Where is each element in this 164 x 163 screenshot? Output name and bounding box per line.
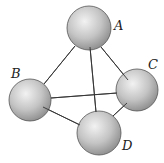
edge-overlay — [51, 93, 117, 98]
sphere-c-shape — [116, 69, 158, 111]
sphere-tetrahedron-diagram: ABCD — [0, 0, 164, 163]
edge-overlay — [44, 46, 75, 84]
sphere-d: D — [77, 111, 133, 155]
edge-overlay — [113, 103, 127, 116]
sphere-d-label: D — [121, 138, 133, 153]
sphere-c-label: C — [148, 57, 158, 72]
sphere-a: A — [67, 6, 123, 50]
nodes: ABCD — [9, 6, 158, 155]
sphere-b-shape — [9, 79, 51, 121]
edge-overlay — [101, 47, 128, 80]
sphere-b-label: B — [10, 66, 21, 81]
sphere-a-label: A — [113, 18, 123, 33]
edge-overlay — [43, 107, 80, 125]
edge-overlay — [90, 47, 96, 112]
sphere-b: B — [9, 66, 51, 121]
sphere-c: C — [116, 57, 158, 111]
sphere-a-shape — [67, 6, 111, 50]
sphere-d-shape — [77, 111, 121, 155]
